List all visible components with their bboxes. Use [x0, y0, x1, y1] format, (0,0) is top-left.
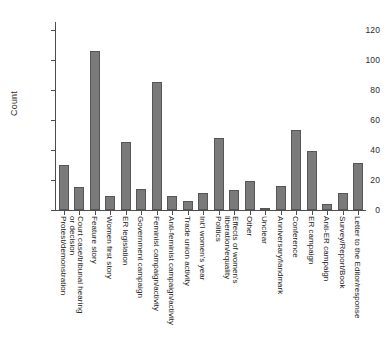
bar	[121, 142, 131, 210]
bar	[214, 138, 224, 210]
x-tick-label: Conference	[291, 216, 300, 258]
x-tick-label: Int'l women's year	[198, 216, 207, 280]
x-tick-16	[312, 211, 313, 215]
y-tick-label-60: 60	[370, 116, 380, 125]
bar	[183, 201, 193, 210]
x-label-line: ER campaign	[306, 216, 315, 265]
y-tick-label-80: 80	[370, 85, 380, 94]
x-label-line: Letter to the Editor/response	[353, 216, 362, 318]
x-label-line: Court case/tribunal hearing	[75, 216, 83, 313]
x-tick-label: Effects of women'sliberation/equality	[222, 216, 239, 284]
x-label-line: Anti-ER campaign	[322, 216, 331, 281]
x-tick-10	[219, 211, 220, 215]
x-label-line: or decision	[67, 216, 75, 313]
x-tick-1	[79, 211, 80, 215]
x-label-line: liberation/equality	[222, 216, 230, 284]
x-axis-ticks	[56, 211, 366, 215]
x-tick-label: Unclear	[260, 216, 269, 244]
x-tick-6	[157, 211, 158, 215]
x-tick-3	[110, 211, 111, 215]
y-axis-title: Count	[9, 91, 19, 116]
x-tick-18	[343, 211, 344, 215]
x-tick-8	[188, 211, 189, 215]
x-tick-label: Other	[244, 216, 253, 236]
y-tick-label-40: 40	[370, 146, 380, 155]
bar	[229, 190, 239, 210]
bar	[74, 187, 84, 210]
x-tick-11	[234, 211, 235, 215]
bar-series	[56, 22, 366, 210]
x-tick-7	[172, 211, 173, 215]
x-tick-label: Trade union activity	[182, 216, 191, 286]
bar	[276, 186, 286, 210]
x-label-line: ER legislation	[120, 216, 129, 266]
bar	[353, 163, 363, 210]
x-tick-0	[64, 211, 65, 215]
x-tick-label: Women first story	[105, 216, 114, 279]
x-tick-12	[250, 211, 251, 215]
y-tick-label-100: 100	[366, 55, 380, 64]
x-tick-14	[281, 211, 282, 215]
bar	[59, 165, 69, 210]
y-tick-label-0: 0	[375, 206, 380, 215]
x-tick-2	[95, 211, 96, 215]
bar	[90, 51, 100, 210]
y-tick-100	[51, 60, 55, 61]
x-tick-9	[203, 211, 204, 215]
x-tick-label: Court case/tribunal hearingor decision	[67, 216, 84, 313]
bar	[167, 196, 177, 210]
x-tick-label: Protest/demonstration	[58, 216, 67, 295]
y-tick-20	[51, 180, 55, 181]
bar	[291, 130, 301, 210]
x-label-line: Feminist campaign/activity	[151, 216, 160, 311]
x-label-line: Int'l women's year	[198, 216, 207, 280]
x-label-line: Survey/Report/Book	[337, 216, 346, 289]
x-label-line: Effects of women's	[230, 216, 238, 284]
x-label-line: Anti-feminist campaign/activity	[167, 216, 176, 325]
x-tick-label: Politics	[213, 216, 222, 242]
y-tick-120	[51, 30, 55, 31]
bar-chart: 020406080100120 Count Protest/demonstrat…	[0, 0, 390, 359]
x-tick-13	[265, 211, 266, 215]
x-tick-label: Anti-ER campaign	[322, 216, 331, 281]
x-tick-label: ER campaign	[306, 216, 315, 265]
x-tick-label: Anti-feminist campaign/activity	[167, 216, 176, 325]
x-label-line: Government campaign	[136, 216, 145, 298]
x-tick-label: Government campaign	[136, 216, 145, 298]
bar	[338, 193, 348, 210]
x-tick-5	[141, 211, 142, 215]
x-label-line: Women first story	[105, 216, 114, 279]
x-tick-label: Survey/Report/Book	[337, 216, 346, 289]
bar	[198, 193, 208, 210]
x-label-line: Politics	[213, 216, 222, 242]
y-tick-40	[51, 150, 55, 151]
x-tick-4	[126, 211, 127, 215]
x-tick-label: Feature story	[89, 216, 98, 264]
bar	[152, 82, 162, 210]
y-tick-80	[51, 90, 55, 91]
y-tick-60	[51, 120, 55, 121]
x-tick-17	[327, 211, 328, 215]
x-label-line: Unclear	[260, 216, 269, 244]
bar	[105, 196, 115, 210]
bar	[307, 151, 317, 210]
x-label-line: Anniversary/landmark	[275, 216, 284, 294]
bar	[136, 189, 146, 210]
x-label-line: Protest/demonstration	[58, 216, 67, 295]
x-tick-label: Letter to the Editor/response	[353, 216, 362, 318]
x-axis-tick-labels: Protest/demonstrationCourt case/tribunal…	[56, 216, 366, 359]
x-tick-label: ER legislation	[120, 216, 129, 266]
x-label-line: Trade union activity	[182, 216, 191, 286]
y-tick-label-20: 20	[370, 176, 380, 185]
x-tick-15	[296, 211, 297, 215]
x-tick-19	[358, 211, 359, 215]
x-label-line: Feature story	[89, 216, 98, 264]
x-label-line: Other	[244, 216, 253, 236]
x-tick-label: Anniversary/landmark	[275, 216, 284, 294]
x-label-line: Conference	[291, 216, 300, 258]
x-tick-label: Feminist campaign/activity	[151, 216, 160, 311]
y-tick-label-120: 120	[366, 25, 380, 34]
bar	[245, 181, 255, 210]
